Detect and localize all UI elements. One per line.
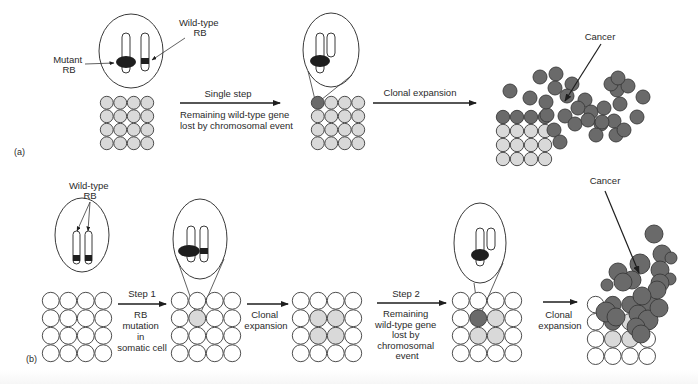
tumor-cell [568,117,582,131]
normal-cell [60,345,77,362]
tumor-cell [611,71,625,85]
normal-cell [171,310,188,327]
chromosome-wild-type [141,33,149,71]
tumor-cell [533,70,547,84]
heterozygous-cell [114,110,127,123]
tumor-cell [311,96,324,109]
panel-a-label: (a) [14,147,25,157]
tumor-cell [650,299,668,317]
tumor-cell [510,110,523,123]
cell-grid-normal [42,292,111,361]
normal-cell [345,345,362,362]
normal-cell [206,327,223,344]
normal-cell [42,345,59,362]
tumor-cell [617,123,631,137]
normal-cell [487,345,504,362]
panel-a: (a) Mutant RB Wild-type RB Single step R… [14,13,650,166]
tumor-cell [553,135,567,149]
step-label-single-step: Single step [204,88,251,99]
cancer-label-b: Cancer [590,175,621,186]
heterozygous-cell [100,96,113,109]
tumor-cell [496,110,509,123]
tumor-cell [601,279,613,291]
normal-cell [327,292,344,309]
normal-cell [470,345,487,362]
heterozygous-cell [127,123,140,136]
heterozygous-cell [114,137,127,150]
cell-grid-heterozygous [100,96,153,149]
heterozygous-cell [538,152,551,165]
normal-cell [77,327,94,344]
normal-cell [77,292,94,309]
normal-cell [60,327,77,344]
normal-cell [505,327,522,344]
normal-cell [292,345,309,362]
normal-cell [345,292,362,309]
normal-cell [605,348,622,365]
normal-cell [189,345,206,362]
normal-cell [171,345,188,362]
heterozygous-cell [100,137,113,150]
wild-type-rb-band [73,255,80,261]
tumor-cell [645,225,663,243]
tumor-cell [607,308,625,326]
tumor-cell [633,287,651,305]
cell-nucleus-homozygous-loss [303,13,359,104]
normal-cell [310,292,327,309]
heterozygous-cell [127,110,140,123]
normal-cell [77,345,94,362]
step-label-clonal-expansion-a: Clonal expansion [384,87,457,98]
cell-nucleus-normal [55,198,109,272]
heterozygous-cell [310,310,327,327]
heterozygous-cell [487,310,504,327]
heterozygous-cell [141,110,154,123]
normal-cell [292,292,309,309]
heterozygous-cell [100,123,113,136]
heterozygous-cell [325,137,338,150]
tumor-cell [549,67,563,81]
tumor-cell [636,90,650,104]
normal-cell [505,292,522,309]
tumor-cell [503,84,517,98]
step-desc-step-1: RB mutation in somatic cell [117,309,167,353]
normal-cell [60,292,77,309]
heterozygous-cell [127,96,140,109]
heterozygous-cell [496,152,509,165]
cancer-pointer-a [565,44,601,101]
normal-cell [622,348,639,365]
normal-cell [95,292,112,309]
tumor-cell [548,81,562,95]
tumor-cell [589,128,603,142]
step-desc-single-step: Remaining wild-type gene lost by chromos… [180,109,293,131]
normal-cell [224,310,241,327]
heterozygous-cell [496,138,509,151]
cell-grid-second-hit [452,292,521,361]
heterozygous-cell [189,310,206,327]
normal-cell [587,348,604,365]
panel-b: (b) Wild-type RB Step 1 RB mutation in s… [26,175,677,365]
page-edge-shadow [0,370,698,384]
heterozygous-cell [141,96,154,109]
heterozygous-cell [325,96,338,109]
heterozygous-cell [325,110,338,123]
heterozygous-cell [338,137,351,150]
heterozygous-cell [127,137,140,150]
normal-cell [452,292,469,309]
tumor-cell [597,101,611,115]
tumor-cell [613,97,627,111]
tumor-cell [523,91,537,105]
tumor-cell [539,95,553,109]
step-desc-step-2: Remaining wild-type gene lost by chromos… [374,308,439,361]
heterozygous-cell [487,327,504,344]
tumor-cell [595,115,609,129]
diagram-canvas: (a) Mutant RB Wild-type RB Single step R… [0,0,698,384]
normal-cell [95,327,112,344]
cell-grid-expanded-clone [292,292,361,361]
wild-type-rb-band [85,255,92,261]
normal-cell [60,310,77,327]
heterozygous-cell [100,110,113,123]
normal-cell [292,327,309,344]
normal-cell [189,327,206,344]
tumor-cell [632,325,650,343]
normal-cell [345,327,362,344]
